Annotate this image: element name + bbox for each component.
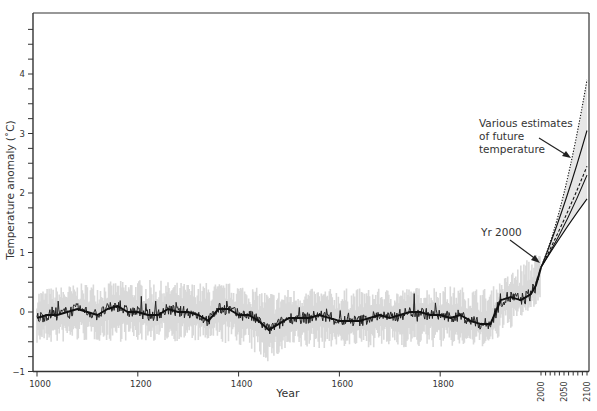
- yr2000-annotation: Yr 2000: [480, 226, 540, 263]
- y-tick-label: 4: [20, 69, 25, 79]
- axis-ticks: −10123410001200140016001800200020502100: [12, 29, 592, 401]
- y-tick-label: 1: [20, 248, 25, 258]
- x-tick-label: 1800: [432, 379, 454, 389]
- annotation-line-2: of future: [479, 130, 524, 142]
- y-tick-label: −1: [12, 367, 25, 377]
- x-tick-label: 2000: [537, 382, 546, 402]
- x-tick-label: 1600: [332, 379, 354, 389]
- arrowhead-icon: [562, 151, 571, 158]
- y-axis-label: Temperature anomaly (˚C): [4, 120, 16, 260]
- yr2000-label: Yr 2000: [480, 226, 522, 238]
- x-tick-label: 2100: [583, 382, 592, 402]
- y-tick-label: 2: [20, 188, 25, 198]
- y-tick-label: 0: [20, 307, 25, 317]
- projection-range-area: [541, 80, 587, 267]
- x-tick-label: 1400: [231, 379, 253, 389]
- chart-canvas: −10123410001200140016001800200020502100 …: [0, 0, 597, 411]
- annotation-line-3: temperature: [479, 143, 545, 155]
- y-tick-label: 3: [20, 129, 25, 139]
- x-axis-label: Year: [275, 387, 300, 400]
- temperature-anomaly-chart: −10123410001200140016001800200020502100 …: [0, 0, 597, 411]
- x-tick-label: 2050: [560, 382, 569, 402]
- annotation-line-1: Various estimates: [479, 117, 573, 129]
- yr2000-arrow-icon: [510, 240, 537, 260]
- future-estimates-annotation: Various estimates of future temperature: [479, 117, 573, 158]
- x-tick-label: 1000: [29, 379, 51, 389]
- projection-range-fill: [541, 80, 587, 267]
- x-tick-label: 1200: [130, 379, 152, 389]
